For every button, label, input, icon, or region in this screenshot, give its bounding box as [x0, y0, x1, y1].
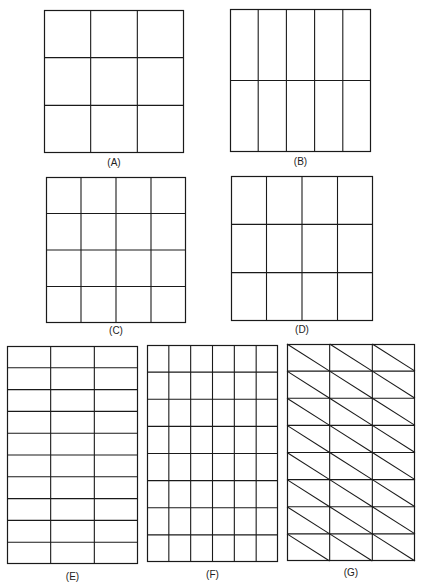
- grid-label-b: (B): [281, 156, 321, 167]
- grid-f: [147, 345, 278, 562]
- grid-label-e: (E): [53, 571, 93, 582]
- grid-lines: [46, 177, 186, 323]
- grid-lines: [230, 9, 371, 152]
- grid-g: [287, 344, 415, 561]
- grid-lines: [231, 176, 373, 321]
- grid-label-f: (F): [193, 569, 233, 580]
- grid-c: [46, 177, 186, 323]
- grid-a: [44, 10, 184, 153]
- grid-e: [7, 346, 138, 564]
- grid-d: [231, 176, 373, 321]
- grid-b: [230, 9, 371, 152]
- grid-label-c: (C): [96, 325, 136, 336]
- grid-label-g: (G): [331, 567, 371, 578]
- grid-lines: [44, 10, 184, 153]
- grid-lines: [147, 345, 278, 562]
- grid-lines: [287, 344, 415, 561]
- grid-label-a: (A): [94, 157, 134, 168]
- grid-lines: [7, 346, 138, 564]
- grid-label-d: (D): [282, 324, 322, 335]
